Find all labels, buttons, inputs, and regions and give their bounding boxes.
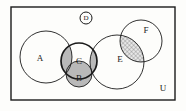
set-label-F: F xyxy=(143,25,148,35)
set-label-C: C xyxy=(76,56,82,66)
universe-label: U xyxy=(160,83,167,93)
set-label-B: B xyxy=(76,73,82,83)
venn-diagram-canvas: A B C D E F U xyxy=(0,0,186,111)
venn-diagram-svg: A B C D E F U xyxy=(0,0,186,111)
set-label-E: E xyxy=(117,54,123,64)
set-label-A: A xyxy=(37,53,44,63)
set-label-D: D xyxy=(83,14,88,22)
